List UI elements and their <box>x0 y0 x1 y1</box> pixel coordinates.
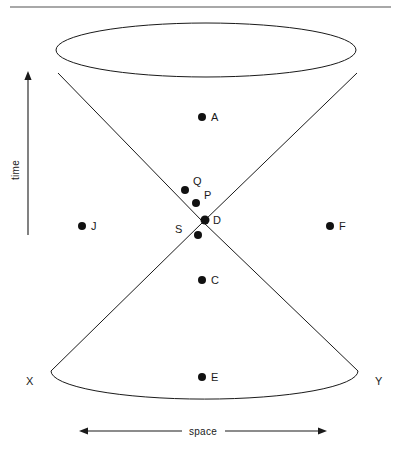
event-dot-q[interactable] <box>181 186 189 194</box>
future-cone-ellipse <box>56 23 356 77</box>
past-cone-left-edge <box>51 222 203 371</box>
event-label-a: A <box>211 111 219 123</box>
event-label-q: Q <box>193 175 202 187</box>
future-cone-left-edge <box>58 73 203 222</box>
event-dot-c[interactable] <box>198 276 206 284</box>
event-dot-p[interactable] <box>192 199 200 207</box>
event-label-p: P <box>204 189 211 201</box>
event-dot-d[interactable] <box>201 216 210 225</box>
event-label-d: D <box>213 214 221 226</box>
past-cone-right-edge <box>203 222 358 371</box>
event-label-j: J <box>91 220 97 232</box>
event-label-s: S <box>175 223 182 235</box>
corner-label-x: X <box>26 375 34 387</box>
space-axis-label: space <box>189 426 217 437</box>
event-dot-e[interactable] <box>198 373 206 381</box>
event-dot-f[interactable] <box>326 222 334 230</box>
lightcone-diagram-canvas: time space X Y A Q P D S J F C <box>0 0 401 449</box>
corner-label-y: Y <box>375 375 383 387</box>
event-label-f: F <box>339 220 346 232</box>
lightcone-diagram-page: time space X Y A Q P D S J F C <box>0 0 401 449</box>
event-label-c: C <box>211 274 219 286</box>
event-label-e: E <box>211 371 218 383</box>
event-dot-s[interactable] <box>194 231 202 239</box>
future-cone-right-edge <box>203 73 357 222</box>
time-axis-label: time <box>10 160 21 180</box>
event-dot-a[interactable] <box>198 113 206 121</box>
event-dot-j[interactable] <box>78 222 86 230</box>
space-axis-left-arrowhead <box>79 427 88 434</box>
space-axis-right-arrowhead <box>318 427 327 434</box>
time-axis-arrowhead <box>24 71 31 80</box>
